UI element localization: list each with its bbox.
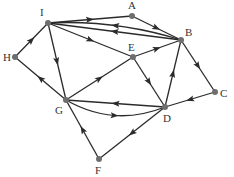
node-I <box>45 20 51 26</box>
arrowhead-icon <box>78 125 87 135</box>
node-E <box>130 54 136 60</box>
node-H <box>12 54 18 60</box>
arrowhead-icon <box>95 74 105 83</box>
arrowhead-icon <box>169 69 177 78</box>
node-label-D: D <box>163 112 171 124</box>
node-F <box>96 156 102 162</box>
arrowhead-icon <box>152 24 162 33</box>
node-B <box>178 37 184 43</box>
arrowhead-icon <box>152 44 162 52</box>
node-A <box>129 13 135 19</box>
node-label-B: B <box>185 26 192 38</box>
arrowhead-icon <box>185 95 194 103</box>
node-label-A: A <box>128 0 136 11</box>
node-label-F: F <box>95 164 101 176</box>
directed-graph-diagram: IABEHCGDF <box>0 0 234 177</box>
node-label-G: G <box>55 104 63 116</box>
arrowhead-icon <box>193 61 202 71</box>
node-label-I: I <box>40 6 44 18</box>
node-G <box>63 97 69 103</box>
node-C <box>212 89 218 95</box>
node-label-E: E <box>128 41 135 53</box>
node-label-H: H <box>3 51 11 63</box>
arrowhead-icon <box>53 57 61 66</box>
arrowhead-icon <box>144 77 153 87</box>
node-label-C: C <box>220 87 227 99</box>
node-D <box>162 104 168 110</box>
arrowhead-icon <box>86 36 96 45</box>
